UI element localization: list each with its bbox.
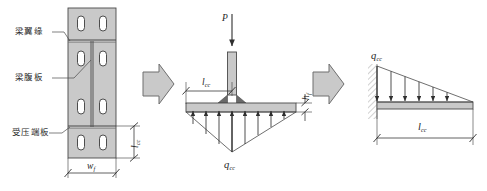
dim-label-flange-width: wf — [87, 162, 95, 172]
label-span-right: lcc — [418, 122, 426, 133]
subscript-cc: cc — [205, 81, 211, 88]
subscript-cc: cc — [376, 55, 382, 62]
label-span-middle: lcc — [202, 78, 210, 88]
block-arrow-1-group — [143, 64, 174, 104]
label-distributed-load-middle: qcc — [224, 160, 235, 171]
bolt-hole — [100, 16, 107, 31]
bolt-hole — [100, 135, 107, 150]
weld-fillet-right — [237, 95, 247, 103]
block-arrow-right-icon — [143, 64, 174, 104]
bolt-hole — [78, 135, 85, 150]
bolt-hole — [78, 16, 85, 31]
leader-line-flange — [52, 32, 70, 41]
subscript-cc: cc — [134, 140, 141, 146]
end-plate-body — [68, 8, 116, 158]
bolt-hole — [100, 51, 107, 66]
label-point-load: P — [222, 14, 228, 24]
figure-canvas — [0, 0, 487, 191]
flange-plate — [186, 103, 296, 112]
subscript-cc: cc — [229, 164, 235, 171]
bolt-hole — [78, 99, 85, 114]
leader-line-endplate — [49, 127, 70, 133]
weld-fillet-left — [218, 95, 228, 103]
panel-left-group — [49, 8, 140, 178]
subscript-f: f — [94, 165, 96, 172]
pressure-triangle-right — [232, 112, 296, 152]
subscript-cc: cc — [421, 126, 427, 133]
bolt-hole — [78, 51, 85, 66]
label-distributed-load-right: qcc — [371, 51, 382, 62]
bolt-hole — [100, 99, 107, 114]
cantilever-beam — [377, 102, 473, 109]
dim-label-plate-height: lcc — [131, 140, 141, 148]
label-beam-web: 梁腹板 — [15, 73, 43, 82]
symbol-w: w — [87, 161, 93, 171]
engineering-figure: 梁翼缘 梁腹板 受压端板 wf lcc P lcc hf qcc qcc lcc — [0, 0, 487, 191]
pressure-arrow-group — [193, 111, 284, 152]
label-beam-flange: 梁翼缘 — [15, 27, 43, 36]
symbol-P: P — [222, 13, 228, 23]
subscript-f: f — [305, 93, 312, 95]
symbol-l: l — [130, 145, 140, 148]
symbol-h: h — [301, 95, 311, 100]
fixed-support-hatch — [368, 64, 377, 119]
block-arrow-2-group — [313, 64, 344, 104]
label-compression-end-plate: 受压端板 — [12, 128, 49, 137]
block-arrow-right-icon — [313, 64, 344, 104]
label-flange-thickness: hf — [302, 94, 312, 100]
load-arrow-group — [377, 66, 447, 101]
